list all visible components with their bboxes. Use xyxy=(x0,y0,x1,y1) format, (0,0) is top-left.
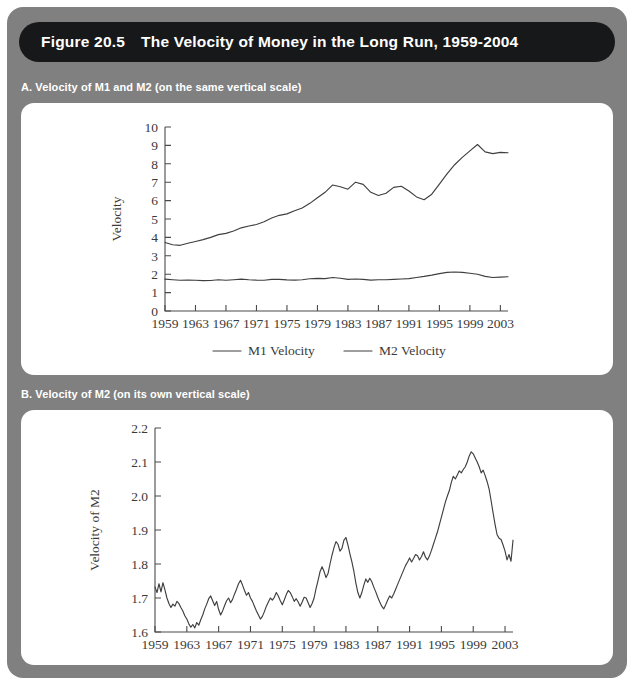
x-tick-label: 1963 xyxy=(182,316,209,331)
y-tick-label: 1.7 xyxy=(131,591,148,606)
x-tick-label: 1975 xyxy=(273,316,300,331)
x-tick-label: 2003 xyxy=(487,316,514,331)
x-tick-label: 1963 xyxy=(173,637,200,652)
x-tick-label: 1979 xyxy=(301,637,328,652)
y-tick-label: 1 xyxy=(151,285,158,300)
y-tick-label: 3 xyxy=(151,249,158,264)
panel-b-chart-area: 1.61.71.81.92.02.12.21959196319671971197… xyxy=(21,410,613,665)
x-tick-label: 1995 xyxy=(426,316,453,331)
x-tick-label: 1971 xyxy=(243,316,270,331)
x-tick-label: 1959 xyxy=(152,316,179,331)
x-tick-label: 1999 xyxy=(460,637,487,652)
x-tick-label: 1995 xyxy=(428,637,455,652)
y-tick-label: 1.8 xyxy=(131,557,148,572)
figure-title: The Velocity of Money in the Long Run, 1… xyxy=(141,33,518,51)
series-line-1 xyxy=(155,452,513,628)
series-line-1 xyxy=(165,144,508,245)
figure-title-bar: Figure 20.5 The Velocity of Money in the… xyxy=(19,22,615,62)
y-tick-label: 8 xyxy=(151,157,158,172)
y-tick-label: 2.1 xyxy=(131,455,148,470)
figure-number: Figure 20.5 xyxy=(41,33,125,51)
series-line-2 xyxy=(165,272,508,281)
y-tick-label: 2 xyxy=(151,267,158,282)
x-tick-label: 1967 xyxy=(205,637,232,652)
y-tick-label: 10 xyxy=(145,120,159,135)
y-tick-label: 2.0 xyxy=(131,489,148,504)
panel-a-caption: A. Velocity of M1 and M2 (on the same ve… xyxy=(21,81,301,93)
x-tick-label: 1959 xyxy=(142,637,169,652)
panel-b-caption: B. Velocity of M2 (on its own vertical s… xyxy=(21,388,250,400)
panel-b-svg: 1.61.71.81.92.02.12.21959196319671971197… xyxy=(21,410,613,665)
x-tick-label: 2003 xyxy=(492,637,519,652)
y-axis-title: Velocity xyxy=(109,196,124,241)
x-tick-label: 1991 xyxy=(396,637,423,652)
figure-card: Figure 20.5 The Velocity of Money in the… xyxy=(7,7,627,678)
x-tick-label: 1967 xyxy=(212,316,239,331)
x-tick-label: 1971 xyxy=(237,637,264,652)
y-tick-label: 1.9 xyxy=(131,523,148,538)
x-tick-label: 1983 xyxy=(334,316,361,331)
panel-a-chart-area: 0123456789101959196319671971197519791983… xyxy=(21,103,613,375)
x-tick-label: 1991 xyxy=(395,316,422,331)
y-tick-label: 7 xyxy=(151,175,158,190)
y-axis-title: Velocity of M2 xyxy=(87,489,102,571)
legend-label-1: M1 Velocity xyxy=(248,343,315,358)
x-tick-label: 1983 xyxy=(332,637,359,652)
y-tick-label: 5 xyxy=(151,212,158,227)
panel-a-svg: 0123456789101959196319671971197519791983… xyxy=(21,103,613,375)
y-tick-label: 4 xyxy=(151,230,158,245)
x-tick-label: 1999 xyxy=(456,316,483,331)
y-tick-label: 2.2 xyxy=(131,421,148,436)
y-tick-label: 6 xyxy=(151,193,158,208)
y-tick-label: 9 xyxy=(151,138,158,153)
figure-root: Figure 20.5 The Velocity of Money in the… xyxy=(0,0,634,685)
legend-label-2: M2 Velocity xyxy=(379,343,446,358)
x-tick-label: 1987 xyxy=(365,316,392,331)
x-tick-label: 1979 xyxy=(304,316,331,331)
axis-frame xyxy=(155,428,513,632)
x-tick-label: 1975 xyxy=(269,637,296,652)
x-tick-label: 1987 xyxy=(364,637,391,652)
axis-frame xyxy=(165,127,508,311)
